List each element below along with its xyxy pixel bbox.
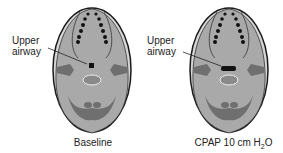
- head-cross-section-cpap: [141, 0, 283, 153]
- cpap-panel: Upper airway CPAP 10 cm H2O: [141, 0, 282, 153]
- upper-airway-label: Upper airway: [12, 35, 41, 57]
- head-cross-section-baseline: [0, 0, 141, 153]
- upper-airway-label: Upper airway: [147, 35, 176, 57]
- upper-airway-marker: [221, 66, 236, 71]
- baseline-caption: Baseline: [72, 137, 114, 148]
- cpap-caption: CPAP 10 cm H2O: [191, 137, 276, 150]
- baseline-panel: Upper airway Baseline: [0, 0, 141, 153]
- upper-airway-marker: [89, 63, 94, 68]
